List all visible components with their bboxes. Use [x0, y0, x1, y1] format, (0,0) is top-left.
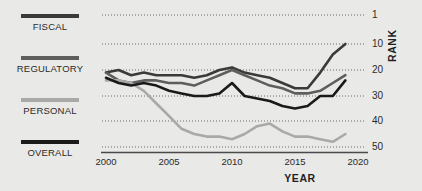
- legend-swatch-regulatory: [21, 56, 79, 60]
- legend-label-overall: OVERALL: [0, 147, 100, 158]
- y-tick-label-1: 1: [372, 9, 378, 20]
- x-tick-label-2005: 2005: [149, 156, 189, 167]
- x-tick-label-2015: 2015: [275, 156, 315, 167]
- legend-label-personal: PERSONAL: [0, 105, 100, 116]
- legend-swatch-fiscal: [21, 14, 79, 18]
- legend-swatch-personal: [21, 98, 79, 102]
- legend-item-fiscal[interactable]: FISCAL: [0, 14, 100, 32]
- y-tick-label-20: 20: [372, 64, 383, 75]
- x-axis-title: YEAR: [240, 172, 360, 184]
- x-tick-label-2010: 2010: [212, 156, 252, 167]
- chart-root: FISCAL REGULATORY PERSONAL OVERALL 1 10 …: [0, 0, 422, 191]
- legend-label-fiscal: FISCAL: [0, 21, 100, 32]
- y-axis-title: RANK: [386, 29, 398, 62]
- y-tick-label-40: 40: [372, 115, 383, 126]
- y-tick-label-10: 10: [372, 38, 383, 49]
- chart-legend: FISCAL REGULATORY PERSONAL OVERALL: [0, 14, 100, 179]
- plot-area: 1 10 20 30 40 50 2000 2005 2010 2015 202…: [100, 0, 422, 191]
- legend-label-regulatory: REGULATORY: [0, 63, 100, 74]
- legend-swatch-overall: [21, 140, 79, 144]
- legend-item-regulatory[interactable]: REGULATORY: [0, 56, 100, 74]
- y-tick-label-50: 50: [372, 141, 383, 152]
- x-tick-label-2020: 2020: [338, 156, 378, 167]
- y-tick-label-30: 30: [372, 90, 383, 101]
- legend-item-overall[interactable]: OVERALL: [0, 140, 100, 158]
- legend-item-personal[interactable]: PERSONAL: [0, 98, 100, 116]
- x-tick-label-2000: 2000: [86, 156, 126, 167]
